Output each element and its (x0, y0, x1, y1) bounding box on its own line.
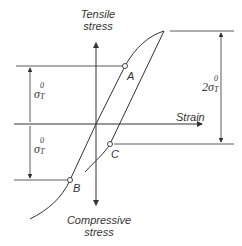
sigma-upper-label: σ0T (34, 87, 40, 102)
tensile-label-line2: stress (76, 20, 120, 32)
tensile-label-line1: Tensile (76, 8, 120, 20)
tensile-stress-label: Tensile stress (76, 8, 120, 32)
point-A-label: A (127, 70, 134, 82)
two-sigma-label: 2σ0T (202, 80, 214, 95)
sigma-sup: 0 (214, 74, 218, 83)
line-to-B (70, 124, 96, 180)
point-C-label: C (111, 148, 119, 160)
sigma-sub: T (40, 92, 44, 101)
sigma-sub: T (40, 147, 44, 156)
point-B-label: B (73, 182, 80, 194)
sigma-lower-label: σ0T (34, 142, 40, 157)
strain-label: Strain (176, 111, 205, 123)
bauschinger-diagram: Tensile stress Compressive stress Strain… (0, 0, 242, 246)
point-B-marker (68, 178, 73, 183)
reverse-curve-C (85, 144, 110, 172)
point-A-marker (123, 64, 128, 69)
compressive-stress-label: Compressive stress (64, 214, 134, 238)
sigma-sub: T (214, 85, 218, 94)
unloading-line (110, 31, 164, 144)
point-C-marker (108, 142, 113, 147)
compressive-label-line1: Compressive (64, 214, 134, 226)
sigma-sup: 0 (40, 136, 44, 145)
sigma-sup: 0 (40, 81, 44, 90)
compressive-label-line2: stress (64, 226, 134, 238)
diagram-canvas (0, 0, 242, 246)
